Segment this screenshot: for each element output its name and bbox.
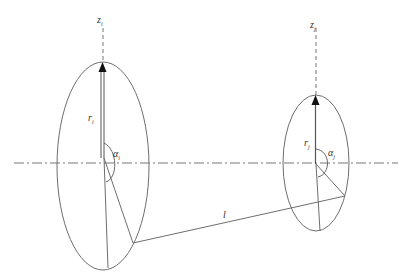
z-i-arrowhead-icon bbox=[99, 62, 107, 72]
r-i-label: ri bbox=[88, 113, 94, 125]
loop-i-vertical-line bbox=[104, 158, 108, 268]
distance-l-line bbox=[133, 196, 345, 243]
z-i-label: zi bbox=[97, 15, 103, 27]
r-j-label: rj bbox=[304, 138, 310, 150]
distance-l-label: l bbox=[223, 210, 226, 220]
alpha-j-label: αj bbox=[328, 148, 335, 160]
z-j-arrowhead-icon bbox=[312, 95, 320, 105]
loop-j-point-radius bbox=[316, 164, 345, 196]
diagram-canvas bbox=[0, 0, 413, 276]
loop-j-vertical-line bbox=[316, 164, 320, 231]
alpha-i-label: αi bbox=[113, 149, 120, 161]
z-j-label: zj bbox=[310, 20, 316, 32]
loop-i-point-radius bbox=[104, 158, 133, 243]
loop-i-ellipse bbox=[57, 62, 149, 270]
